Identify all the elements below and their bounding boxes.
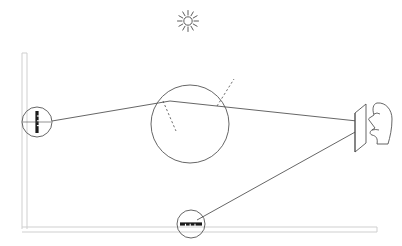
ground-mounted-mirror-device[interactable]	[177, 210, 205, 238]
optical-ray-diagram	[0, 0, 402, 246]
ray-sphere-to-screen	[170, 101, 357, 121]
sun-ray-5	[191, 26, 193, 30]
architecture-structure	[22, 53, 377, 232]
normal-line-right	[217, 79, 234, 106]
sun-icon	[178, 11, 199, 32]
sun-ray-2	[193, 16, 197, 18]
wall-mounted-mirror-device[interactable]	[22, 107, 52, 137]
sun-ray-11	[183, 12, 185, 16]
sun-ray-7	[183, 26, 185, 30]
ray-ground-to-screen	[197, 131, 357, 220]
sun-ray-4	[193, 24, 197, 26]
sun-ray-10	[179, 16, 183, 18]
normal-line-left	[163, 101, 176, 131]
ray-wall-to-sphere	[52, 101, 170, 121]
sun-ray-8	[179, 24, 183, 26]
screen-plate-face	[355, 104, 366, 152]
observer-head-outline	[369, 103, 392, 144]
sun-ray-1	[191, 12, 193, 16]
projection-screen-plate[interactable]	[355, 104, 366, 152]
diagram-canvas	[0, 0, 402, 246]
spherical-lens	[151, 85, 229, 163]
sun-core	[184, 17, 192, 25]
observer-face-profile	[369, 103, 392, 144]
